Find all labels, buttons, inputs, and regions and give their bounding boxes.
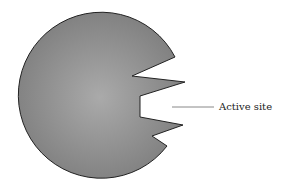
- active-site-label: Active site: [219, 101, 272, 112]
- enzyme-diagram: [0, 0, 287, 194]
- enzyme-shape: [18, 12, 185, 178]
